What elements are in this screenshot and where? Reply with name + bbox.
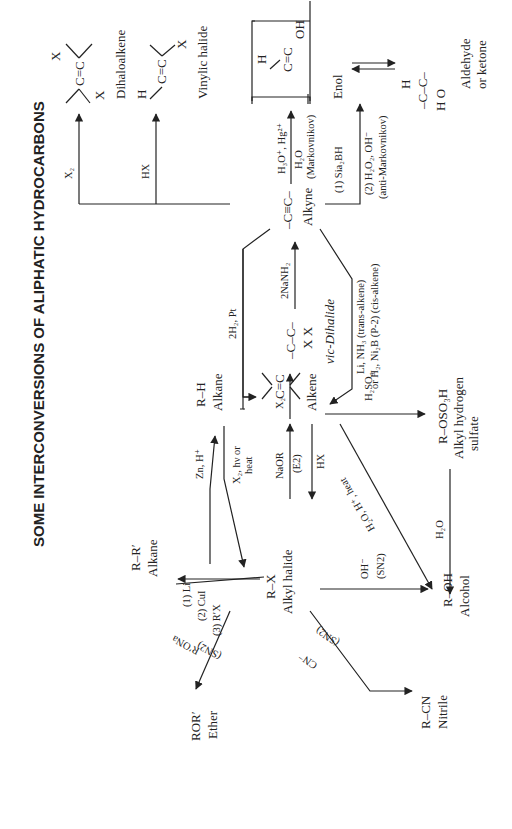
svg-text:X: X — [174, 39, 189, 49]
svg-text:–C≡C–: –C≡C– — [280, 191, 295, 230]
svg-text:H₂O, H⁺, heat: H₂O, H⁺, heat — [337, 476, 377, 533]
svg-text:C=C: C=C — [72, 61, 87, 86]
nitrile: R–CN Nitrile — [418, 695, 450, 729]
vic-dihalide: –C–C– X X vic-Dihalide — [283, 299, 337, 364]
svg-text:(SN2): (SN2) — [375, 553, 387, 579]
reagent-hx-vinylic: HX — [140, 163, 151, 179]
svg-text:R–OSO₃H: R–OSO₃H — [435, 389, 450, 444]
svg-text:H: H — [134, 90, 149, 99]
svg-text:Alkene: Alkene — [304, 373, 319, 411]
svg-text:X₂, hν or: X₂, hν or — [231, 446, 242, 484]
svg-text:Ether: Ether — [205, 710, 220, 739]
svg-text:R′ONa: R′ONa — [170, 633, 201, 657]
alkane-rh: R–H Alkane — [193, 373, 225, 411]
alcohol: R–OH Alcohol — [440, 573, 472, 617]
svg-text:H: H — [254, 55, 269, 64]
svg-text:R–R′: R–R′ — [128, 544, 143, 571]
svg-text:C=C: C=C — [280, 47, 295, 72]
svg-text:X X: X X — [300, 326, 315, 349]
svg-text:X: X — [48, 51, 63, 61]
svg-text:vic-Dihalide: vic-Dihalide — [322, 299, 337, 364]
svg-text:H₂O: H₂O — [434, 520, 445, 539]
svg-text:Vinylic halide: Vinylic halide — [195, 26, 210, 99]
svg-text:R–X: R–X — [263, 574, 278, 599]
svg-text:OH: OH — [292, 20, 307, 39]
svg-text:Dihaloalkene: Dihaloalkene — [113, 29, 128, 99]
svg-text:X₂: X₂ — [274, 397, 285, 409]
reaction-diagram: SOME INTERCONVERSIONS OF ALIPHATIC HYDRO… — [0, 0, 512, 829]
dihaloalkene: X C=C X Dihaloalkene — [48, 29, 128, 103]
ether: ROR′ Ether — [188, 710, 220, 741]
svg-text:2NaNH₂: 2NaNH₂ — [279, 262, 290, 299]
alkyne: –C≡C– Alkyne — [280, 188, 315, 231]
svg-text:X: X — [92, 90, 107, 100]
svg-text:or H₂, Ni₂B (P-2) (cis-alkene): or H₂, Ni₂B (P-2) (cis-alkene) — [369, 263, 381, 389]
svg-text:NaOR: NaOR — [274, 452, 285, 479]
svg-text:Enol: Enol — [330, 74, 345, 99]
svg-text:–C–C–: –C–C– — [283, 322, 298, 360]
svg-text:CN⁻: CN⁻ — [296, 651, 319, 672]
svg-text:Li, NH₃ (trans-alkene): Li, NH₃ (trans-alkene) — [355, 279, 367, 374]
vinylic-halide: H C=C X Vinylic halide — [134, 26, 210, 99]
reagent-x2-dihaloalkene: X₂ — [63, 167, 74, 179]
svg-text:H O: H O — [433, 89, 448, 111]
svg-text:Zn, H⁺: Zn, H⁺ — [194, 449, 205, 479]
svg-text:Alkyl hydrogen: Alkyl hydrogen — [451, 377, 466, 459]
svg-text:(1) Sia₂BH: (1) Sia₂BH — [333, 146, 345, 193]
alkyl-halide: R–X Alkyl halide — [263, 549, 295, 614]
svg-text:(1) Li: (1) Li — [181, 583, 193, 607]
svg-text:heat: heat — [243, 456, 254, 474]
diagram-title: SOME INTERCONVERSIONS OF ALIPHATIC HYDRO… — [30, 101, 47, 547]
aldehyde-ketone: H –C–C– H O Aldehyde or ketone — [398, 38, 489, 111]
svg-text:(E2): (E2) — [291, 454, 303, 473]
svg-text:HX: HX — [315, 453, 326, 469]
svg-text:R–H: R–H — [193, 382, 208, 407]
svg-text:R–OH: R–OH — [440, 573, 455, 607]
svg-text:OH⁻: OH⁻ — [359, 558, 370, 579]
svg-text:2H₂, Pt: 2H₂, Pt — [227, 308, 238, 339]
svg-text:H₂SO₄: H₂SO₄ — [363, 372, 374, 401]
svg-text:H₂O: H₂O — [293, 150, 304, 169]
enol: H C=C OH Enol — [252, 1, 345, 104]
svg-text:Alkyl halide: Alkyl halide — [280, 549, 295, 614]
svg-text:C=C: C=C — [154, 59, 169, 84]
svg-text:(anti-Markovnikov): (anti-Markovnikov) — [377, 115, 389, 199]
svg-text:R–CN: R–CN — [418, 695, 433, 729]
svg-text:Alkane: Alkane — [145, 539, 160, 577]
alkyl-hydrogen-sulfate: R–OSO₃H Alkyl hydrogen sulfate — [435, 377, 481, 459]
svg-text:(Markovnikov): (Markovnikov) — [305, 114, 317, 179]
svg-text:Alkane: Alkane — [210, 373, 225, 411]
svg-text:sulfate: sulfate — [466, 416, 481, 451]
svg-text:(2) H₂O₂, OH⁻: (2) H₂O₂, OH⁻ — [363, 132, 375, 195]
svg-text:–C–C–: –C–C– — [415, 72, 430, 110]
svg-text:H: H — [398, 80, 413, 89]
svg-text:ROR′: ROR′ — [188, 711, 203, 741]
svg-text:Alkyne: Alkyne — [300, 188, 315, 227]
alkane-rr: R–R′ Alkane — [128, 539, 160, 577]
svg-text:Aldehyde: Aldehyde — [458, 38, 473, 89]
svg-text:C=C: C=C — [272, 374, 287, 399]
svg-text:(SN2): (SN2) — [313, 624, 341, 649]
svg-text:H₃O⁺, Hg²⁺: H₃O⁺, Hg²⁺ — [276, 123, 287, 174]
svg-text:Alcohol: Alcohol — [457, 575, 472, 617]
svg-text:Nitrile: Nitrile — [435, 695, 450, 729]
svg-text:or ketone: or ketone — [474, 40, 489, 89]
svg-text:(2) CuI: (2) CuI — [196, 590, 208, 621]
